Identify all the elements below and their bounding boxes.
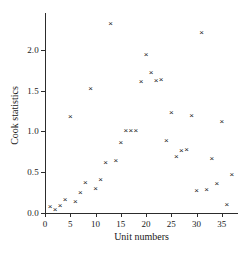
data-point-marker: × — [63, 196, 68, 204]
data-point-marker: × — [98, 176, 103, 184]
data-point-marker: × — [88, 85, 93, 93]
y-axis-label-wrapper: Cook statistics — [0, 50, 14, 170]
data-point-marker: × — [103, 159, 108, 167]
x-tick-mark — [70, 213, 71, 217]
data-point-marker: × — [58, 202, 63, 210]
x-tick-mark — [146, 213, 147, 217]
data-point-marker: × — [159, 76, 164, 84]
y-tick-mark — [41, 172, 45, 173]
data-point-marker: × — [113, 157, 118, 165]
x-tick-mark — [171, 213, 172, 217]
y-tick-mark — [41, 131, 45, 132]
x-tick-mark — [45, 213, 46, 217]
x-tick-mark — [197, 213, 198, 217]
plot-area: 0.00.51.01.52.0 05101520253035 ×××××××××… — [45, 13, 237, 213]
data-point-marker: × — [73, 198, 78, 206]
y-tick-label: 0.0 — [27, 208, 39, 218]
data-point-marker: × — [68, 113, 73, 121]
x-axis-line — [45, 213, 238, 214]
data-point-marker: × — [149, 69, 154, 77]
data-point-marker: × — [199, 29, 204, 37]
y-tick-label: 1.5 — [27, 86, 39, 96]
data-point-marker: × — [230, 171, 235, 179]
data-point-marker: × — [118, 139, 123, 147]
y-tick-mark — [41, 91, 45, 92]
x-axis-label: Unit numbers — [45, 231, 238, 242]
data-point-marker: × — [225, 201, 230, 209]
scatter-plot-figure: Cook statistics 0.00.51.01.52.0 05101520… — [0, 0, 249, 253]
data-point-marker: × — [78, 189, 83, 197]
x-tick-mark — [121, 213, 122, 217]
x-tick-label: 0 — [43, 219, 48, 229]
x-tick-label: 20 — [142, 219, 151, 229]
data-point-marker: × — [108, 20, 113, 28]
data-point-marker: × — [139, 78, 144, 86]
data-point-marker: × — [209, 155, 214, 163]
x-tick-mark — [96, 213, 97, 217]
x-tick-label: 15 — [116, 219, 125, 229]
data-point-marker: × — [48, 203, 53, 211]
data-point-marker: × — [184, 146, 189, 154]
data-point-marker: × — [129, 127, 134, 135]
y-tick-mark — [41, 50, 45, 51]
y-tick-label: 0.5 — [27, 167, 39, 177]
x-tick-label: 25 — [167, 219, 176, 229]
data-point-marker: × — [189, 112, 194, 120]
data-point-marker: × — [53, 206, 58, 214]
data-point-marker: × — [179, 147, 184, 155]
data-point-marker: × — [134, 127, 139, 135]
data-point-marker: × — [219, 118, 224, 126]
x-tick-label: 35 — [217, 219, 226, 229]
x-tick-label: 10 — [91, 219, 100, 229]
data-point-marker: × — [214, 180, 219, 188]
y-tick-label: 2.0 — [27, 45, 39, 55]
data-point-marker: × — [169, 109, 174, 117]
data-point-marker: × — [204, 186, 209, 194]
data-point-marker: × — [154, 77, 159, 85]
data-point-marker: × — [123, 127, 128, 135]
data-point-marker: × — [174, 153, 179, 161]
data-point-marker: × — [194, 187, 199, 195]
x-tick-mark — [222, 213, 223, 217]
data-point-marker: × — [83, 179, 88, 187]
data-point-marker: × — [144, 51, 149, 59]
data-point-marker: × — [164, 137, 169, 145]
data-point-marker: × — [93, 185, 98, 193]
x-tick-label: 30 — [192, 219, 201, 229]
x-tick-label: 5 — [68, 219, 73, 229]
y-axis-label: Cook statistics — [9, 56, 20, 176]
y-tick-label: 1.0 — [27, 126, 39, 136]
